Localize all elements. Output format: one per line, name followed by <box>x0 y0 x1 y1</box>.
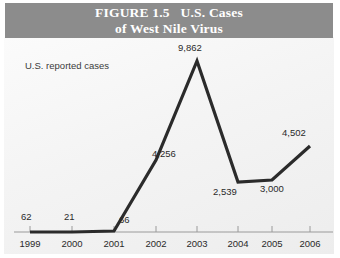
x-axis-label-2006: 2006 <box>299 238 320 249</box>
data-value-label-2002: 4,256 <box>152 148 176 159</box>
data-value-label-2001: 66 <box>119 214 130 225</box>
x-axis-label-2000: 2000 <box>61 238 82 249</box>
x-axis-label-2005: 2005 <box>261 238 282 249</box>
x-axis-label-2002: 2002 <box>145 238 166 249</box>
data-line-us-reported-cases <box>30 61 310 232</box>
figure-west-nile-virus: FIGURE 1.5 U.S. Cases of West Nile Virus… <box>0 0 340 258</box>
x-axis-label-2001: 2001 <box>103 238 124 249</box>
data-value-label-2006: 4,502 <box>282 127 306 138</box>
x-axis-label-1999: 1999 <box>19 238 40 249</box>
data-value-label-2000: 21 <box>64 211 75 222</box>
data-value-label-2004: 2,539 <box>213 186 237 197</box>
data-value-label-2003: 9,862 <box>178 42 202 53</box>
data-value-label-1999: 62 <box>21 211 32 222</box>
x-axis-label-2003: 2003 <box>186 238 207 249</box>
x-axis-label-2004: 2004 <box>227 238 248 249</box>
data-value-label-2005: 3,000 <box>260 183 284 194</box>
